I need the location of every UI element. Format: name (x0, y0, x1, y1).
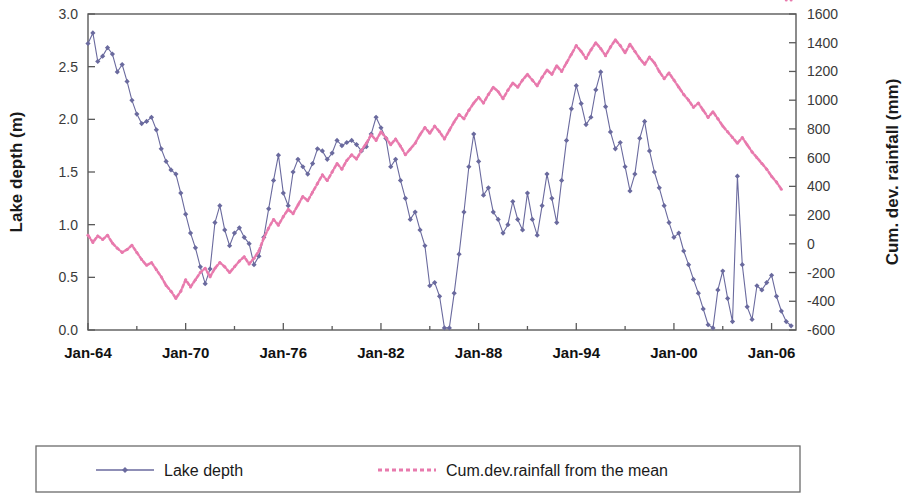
data-point-marker (228, 271, 231, 274)
data-point-marker (189, 285, 192, 288)
data-point-marker (165, 284, 168, 287)
data-point-marker (497, 90, 500, 93)
x-tick-label: Jan-06 (748, 344, 796, 361)
data-point-marker (702, 109, 705, 112)
data-point-marker (126, 248, 129, 251)
data-point-marker (184, 278, 187, 281)
data-point-marker (399, 145, 402, 148)
data-point-marker (697, 102, 700, 105)
data-point-marker (101, 238, 104, 241)
data-point-marker (179, 290, 182, 293)
data-point-marker (160, 275, 163, 278)
data-point-marker (414, 142, 417, 145)
data-point-marker (502, 97, 505, 100)
data-point-marker (218, 261, 221, 264)
data-point-marker (531, 79, 534, 82)
data-point-marker (585, 57, 588, 60)
data-point-marker (589, 48, 592, 51)
data-point-marker (170, 290, 173, 293)
data-point-marker (423, 126, 426, 129)
data-point-marker (106, 234, 109, 237)
data-point-marker (267, 227, 270, 230)
data-point-marker (467, 109, 470, 112)
data-point-marker (321, 173, 324, 176)
data-point-marker (365, 142, 368, 145)
data-point-marker (536, 84, 539, 87)
data-point-marker (614, 38, 617, 41)
data-point-marker (336, 162, 339, 165)
data-point-marker (731, 136, 734, 139)
data-point-marker (516, 86, 519, 89)
data-point-marker (296, 204, 299, 207)
data-point-marker (521, 79, 524, 82)
data-point-marker (692, 106, 695, 109)
data-point-marker (760, 162, 763, 165)
data-point-marker (472, 102, 475, 105)
data-point-marker (663, 77, 666, 80)
data-point-marker (443, 137, 446, 140)
x-tick-label: Jan-88 (455, 344, 503, 361)
data-point-marker (487, 93, 490, 96)
chart-background (0, 0, 914, 496)
data-point-marker (326, 179, 329, 182)
data-point-marker (672, 79, 675, 82)
left-tick-label: 0.0 (59, 322, 79, 338)
left-tick-label: 2.5 (59, 59, 79, 75)
right-tick-label: 1200 (807, 63, 838, 79)
right-tick-label: 0 (807, 236, 815, 252)
data-point-marker (545, 69, 548, 72)
data-point-marker (741, 136, 744, 139)
data-point-marker (575, 44, 578, 47)
left-tick-label: 0.5 (59, 269, 79, 285)
data-point-marker (594, 41, 597, 44)
right-tick-label: -400 (807, 293, 835, 309)
left-tick-label: 1.0 (59, 217, 79, 233)
data-point-marker (565, 61, 568, 64)
data-point-marker (379, 130, 382, 133)
left-axis-title-text: Lake depth (m) (7, 112, 26, 233)
data-point-marker (355, 158, 358, 161)
right-tick-label: 400 (807, 178, 831, 194)
data-point-marker (253, 257, 256, 260)
data-point-marker (331, 171, 334, 174)
x-tick-label: Jan-00 (650, 344, 698, 361)
data-point-marker (604, 54, 607, 57)
data-point-marker (111, 242, 114, 245)
data-point-marker (404, 153, 407, 156)
data-point-marker (707, 116, 710, 119)
data-point-marker (550, 73, 553, 76)
chart-legend: Lake depthCum.dev.rainfall from the mean (36, 446, 800, 492)
data-point-marker (580, 50, 583, 53)
x-tick-label: Jan-82 (357, 344, 405, 361)
lake-depth-rainfall-chart: Lake depth (m) Cum. dev. rainfall (mm) 0… (0, 0, 914, 496)
legend-item-label: Cum.dev.rainfall from the mean (446, 462, 668, 479)
data-point-marker (638, 57, 641, 60)
data-point-marker (653, 61, 656, 64)
data-point-marker (262, 237, 265, 240)
data-point-marker (96, 234, 99, 237)
data-point-marker (135, 251, 138, 254)
data-point-marker (477, 96, 480, 99)
data-point-marker (658, 70, 661, 73)
data-point-marker (448, 129, 451, 132)
data-point-marker (287, 208, 290, 211)
right-axis-title: Cum. dev. rainfall (mm) (883, 79, 902, 266)
data-point-marker (199, 271, 202, 274)
data-point-marker (145, 264, 148, 267)
data-point-marker (194, 278, 197, 281)
left-tick-label: 3.0 (59, 6, 79, 22)
data-point-marker (570, 53, 573, 56)
data-point-marker (453, 120, 456, 123)
data-point-marker (121, 251, 124, 254)
data-point-marker (209, 275, 212, 278)
data-point-marker (360, 149, 363, 152)
data-point-marker (458, 113, 461, 116)
data-point-marker (233, 265, 236, 268)
right-tick-label: 1600 (807, 6, 838, 22)
data-point-marker (130, 244, 133, 247)
right-tick-label: -600 (807, 322, 835, 338)
data-point-marker (87, 234, 90, 237)
data-point-marker (316, 182, 319, 185)
data-point-marker (624, 51, 627, 54)
data-point-marker (223, 265, 226, 268)
